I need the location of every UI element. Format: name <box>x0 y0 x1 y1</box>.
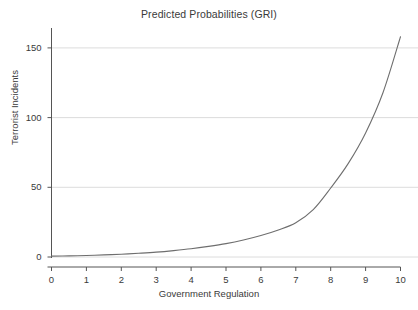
plot-area <box>0 0 418 310</box>
x-tick-label: 10 <box>391 274 411 285</box>
y-tick-label: 0 <box>12 251 42 262</box>
chart-container: Predicted Probabilities (GRI) Terrorist … <box>0 0 418 310</box>
x-tick-label: 9 <box>356 274 376 285</box>
data-line-predicted-incidents <box>52 37 401 256</box>
x-tick-label: 5 <box>216 274 236 285</box>
x-tick-label: 4 <box>181 274 201 285</box>
x-tick-label: 2 <box>111 274 131 285</box>
x-tick-label: 8 <box>321 274 341 285</box>
y-tick-label: 100 <box>12 112 42 123</box>
gridlines <box>52 48 418 257</box>
x-tick-label: 7 <box>286 274 306 285</box>
x-tick-label: 6 <box>251 274 271 285</box>
y-tick-label: 50 <box>12 181 42 192</box>
axis-tick-marks <box>48 48 401 271</box>
x-tick-label: 3 <box>146 274 166 285</box>
y-tick-label: 150 <box>12 42 42 53</box>
x-tick-label: 0 <box>42 274 62 285</box>
axis-lines <box>48 28 401 267</box>
x-tick-label: 1 <box>76 274 96 285</box>
